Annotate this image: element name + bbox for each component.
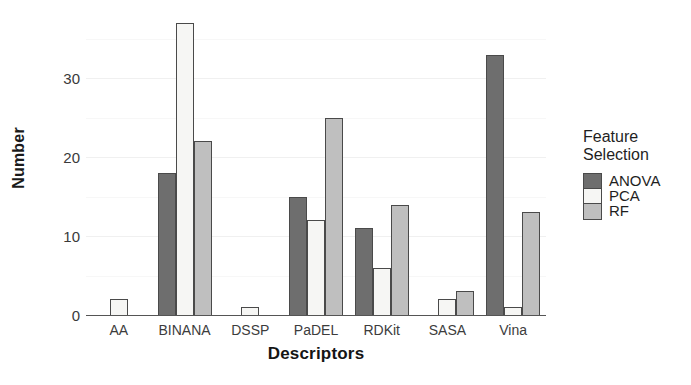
bar-aa-pca xyxy=(110,299,128,315)
legend-labels: ANOVAPCARF xyxy=(609,173,660,218)
bar-group-dssp xyxy=(217,10,283,315)
legend-swatch-anova xyxy=(584,174,601,189)
legend-title: Feature Selection xyxy=(583,128,689,164)
bar-group-binana xyxy=(152,10,218,315)
x-tick-label-padel: PaDEL xyxy=(294,322,338,338)
legend: Feature Selection ANOVAPCARF xyxy=(583,128,689,220)
legend-swatches xyxy=(583,173,602,220)
legend-items: ANOVAPCARF xyxy=(583,173,689,220)
x-axis-title: Descriptors xyxy=(86,344,546,364)
bar-padel-pca xyxy=(307,220,325,315)
bar-rdkit-pca xyxy=(373,268,391,315)
y-tick-label: 20 xyxy=(34,149,80,166)
bar-group-sasa xyxy=(415,10,481,315)
bar-sasa-rf xyxy=(456,291,474,315)
legend-label-anova: ANOVA xyxy=(609,173,660,188)
y-tick-label: 30 xyxy=(34,70,80,87)
bar-vina-rf xyxy=(522,212,540,315)
legend-label-rf: RF xyxy=(609,203,660,218)
bar-padel-rf xyxy=(325,118,343,315)
bar-binana-anova xyxy=(158,173,176,315)
y-tick-label: 10 xyxy=(34,228,80,245)
bar-group-rdkit xyxy=(349,10,415,315)
bar-rdkit-anova xyxy=(355,228,373,315)
x-tick-label-dssp: DSSP xyxy=(231,322,269,338)
bar-sasa-pca xyxy=(438,299,456,315)
x-tick-label-vina: Vina xyxy=(499,322,527,338)
bar-group-vina xyxy=(480,10,546,315)
y-axis-tick-labels: 0102030 xyxy=(24,0,80,385)
x-tick-label-aa: AA xyxy=(110,322,129,338)
bar-binana-pca xyxy=(176,23,194,315)
x-tick-label-rdkit: RDKit xyxy=(363,322,400,338)
x-tick-label-sasa: SASA xyxy=(429,322,466,338)
y-tick-label: 0 xyxy=(34,307,80,324)
legend-swatch-pca xyxy=(584,189,601,204)
bar-dssp-pca xyxy=(241,307,259,315)
bar-vina-pca xyxy=(504,307,522,315)
bar-binana-rf xyxy=(194,141,212,315)
x-axis-line xyxy=(86,315,546,316)
plot-area xyxy=(86,10,546,315)
legend-label-pca: PCA xyxy=(609,188,660,203)
bar-vina-anova xyxy=(486,55,504,315)
bar-chart-figure: Number 0102030 AABINANADSSPPaDELRDKitSAS… xyxy=(0,0,691,385)
bar-group-aa xyxy=(86,10,152,315)
x-tick-label-binana: BINANA xyxy=(159,322,211,338)
bar-rdkit-rf xyxy=(391,205,409,315)
bar-padel-anova xyxy=(289,197,307,315)
bar-group-padel xyxy=(283,10,349,315)
legend-swatch-rf xyxy=(584,204,601,219)
